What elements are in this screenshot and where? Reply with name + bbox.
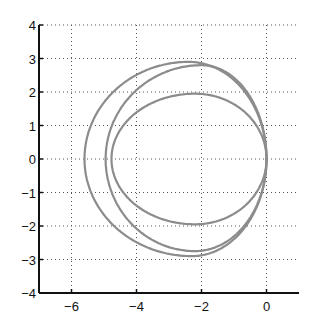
x-tick-label: 0 xyxy=(263,299,270,314)
y-tick-label: 0 xyxy=(29,152,36,167)
x-tick-label: −4 xyxy=(129,299,144,314)
y-tick-label: −1 xyxy=(21,186,36,201)
y-tick-label: 4 xyxy=(29,18,36,33)
y-tick-label: −3 xyxy=(21,253,36,268)
x-tick-label: −6 xyxy=(64,299,79,314)
y-tick-label: 3 xyxy=(29,52,36,67)
x-tick-label: −2 xyxy=(194,299,209,314)
chart: −6−4−20−4−3−2−101234 xyxy=(0,0,317,319)
y-tick-label: 1 xyxy=(29,119,36,134)
y-tick-label: −4 xyxy=(21,286,36,301)
y-tick-label: 2 xyxy=(29,85,36,100)
grid xyxy=(39,25,299,293)
y-tick-label: −2 xyxy=(21,219,36,234)
